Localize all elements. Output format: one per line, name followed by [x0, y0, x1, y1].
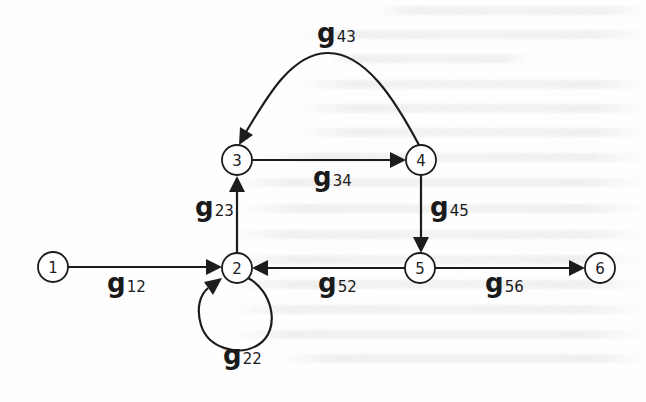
gain-label-g52: g52 [318, 268, 357, 298]
node-1: 1 [38, 252, 68, 282]
node-label: 1 [48, 259, 58, 277]
node-5: 5 [405, 253, 435, 283]
edge-1-2 [68, 259, 222, 275]
edge-4-3 [239, 53, 419, 145]
arrowhead-icon [252, 260, 268, 276]
gain-label-g12: g12 [107, 268, 146, 298]
arrowhead-icon [239, 127, 253, 145]
arrowhead-icon [390, 152, 406, 168]
gain-label-g45: g45 [430, 192, 469, 222]
gain-label-g22: g22 [223, 340, 262, 370]
node-label: 5 [415, 260, 425, 278]
node-label: 4 [416, 152, 426, 170]
gain-label-g34: g34 [313, 162, 352, 192]
edge-5-6 [435, 260, 585, 276]
node-4: 4 [406, 145, 436, 175]
node-label: 3 [232, 152, 242, 170]
node-2: 2 [222, 253, 252, 283]
gain-label-g43: g43 [317, 18, 356, 48]
arrowhead-icon [204, 278, 222, 295]
node-label: 6 [595, 260, 605, 278]
signal-flow-graph: 1 2 3 4 5 6 g12 g23 [0, 0, 646, 402]
arrowhead-icon [569, 260, 585, 276]
arrowhead-icon [229, 176, 245, 192]
edge-4-5 [413, 175, 429, 253]
gain-label-g23: g23 [195, 192, 234, 222]
node-6: 6 [585, 253, 615, 283]
diagram-canvas: 1 2 3 4 5 6 g12 g23 [0, 0, 646, 402]
node-label: 2 [232, 260, 242, 278]
gain-label-g56: g56 [485, 268, 524, 298]
arrowhead-icon [413, 237, 429, 253]
node-3: 3 [222, 145, 252, 175]
arrowhead-icon [206, 259, 222, 275]
